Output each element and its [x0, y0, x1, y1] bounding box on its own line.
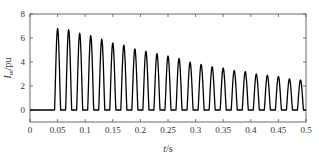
y-tick-label: 4 [21, 57, 26, 67]
x-tick-label: 0.05 [50, 125, 66, 135]
x-tick-label: 0 [28, 125, 33, 135]
y-axis-label: Im/pu [2, 57, 15, 79]
y-tick-label: 2 [21, 81, 26, 91]
x-axis-label: t/s [163, 143, 173, 154]
y-tick-label: 0 [21, 105, 26, 115]
x-tick-label: 0.35 [215, 125, 231, 135]
y-tick-label: 6 [21, 33, 26, 43]
x-tick-label: 0.1 [80, 125, 91, 135]
x-tick-label: 0.2 [135, 125, 146, 135]
x-tick-label: 0.3 [190, 125, 202, 135]
current-line [30, 28, 306, 110]
x-tick-label: 0.45 [271, 125, 287, 135]
inrush-current-chart: 00.050.10.150.20.250.30.350.40.450.50246… [0, 0, 319, 157]
data-series [30, 28, 306, 110]
x-tick-label: 0.4 [245, 125, 257, 135]
x-tick-label: 0.5 [300, 125, 312, 135]
x-tick-label: 0.15 [105, 125, 121, 135]
y-tick-label: 8 [21, 9, 26, 19]
x-tick-label: 0.25 [160, 125, 176, 135]
